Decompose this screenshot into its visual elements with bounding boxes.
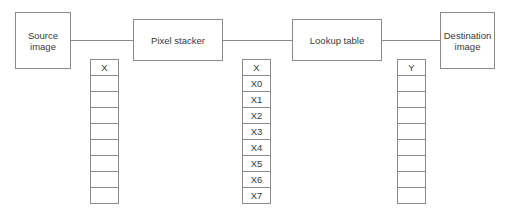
column-header: Y	[398, 60, 425, 76]
source-image-node: Source image	[15, 12, 71, 69]
column-cell: X7	[243, 188, 270, 204]
source-pixel-column: X	[90, 59, 119, 204]
column-cell	[398, 188, 425, 204]
column-cell: X0	[243, 76, 270, 92]
column-cell	[398, 156, 425, 172]
column-cell: X2	[243, 108, 270, 124]
lookup-table-node: Lookup table	[292, 19, 382, 61]
column-cell	[91, 172, 118, 188]
column-cell	[91, 188, 118, 204]
source-label-line1: Source	[28, 30, 58, 41]
column-cell	[91, 140, 118, 156]
pixel-stacker-label: Pixel stacker	[151, 35, 205, 46]
connector-stacker-lookup	[222, 40, 292, 41]
connector-lookup-destination	[381, 40, 440, 41]
destination-pixel-column: Y	[397, 59, 426, 204]
column-cell	[398, 76, 425, 92]
column-cell	[91, 124, 118, 140]
column-cell	[398, 140, 425, 156]
destination-image-node: Destination image	[440, 12, 495, 69]
column-cell	[398, 172, 425, 188]
lookup-table-label: Lookup table	[310, 35, 364, 46]
column-cell: X6	[243, 172, 270, 188]
column-cell: X1	[243, 92, 270, 108]
pixel-stacker-node: Pixel stacker	[133, 19, 223, 61]
column-cell	[91, 156, 118, 172]
source-label-line2: image	[28, 41, 58, 52]
column-header: X	[243, 60, 270, 76]
column-cell	[91, 76, 118, 92]
connector-source-stacker	[70, 40, 133, 41]
column-cell	[398, 108, 425, 124]
column-cell	[398, 124, 425, 140]
column-cell: X3	[243, 124, 270, 140]
column-cell: X4	[243, 140, 270, 156]
column-cell: X5	[243, 156, 270, 172]
column-header: X	[91, 60, 118, 76]
column-cell	[398, 92, 425, 108]
destination-label-line1: Destination	[444, 30, 492, 41]
column-cell	[91, 108, 118, 124]
column-cell	[91, 92, 118, 108]
stacked-pixel-column: X X0 X1 X2 X3 X4 X5 X6 X7	[242, 59, 271, 204]
destination-label-line2: image	[444, 41, 492, 52]
